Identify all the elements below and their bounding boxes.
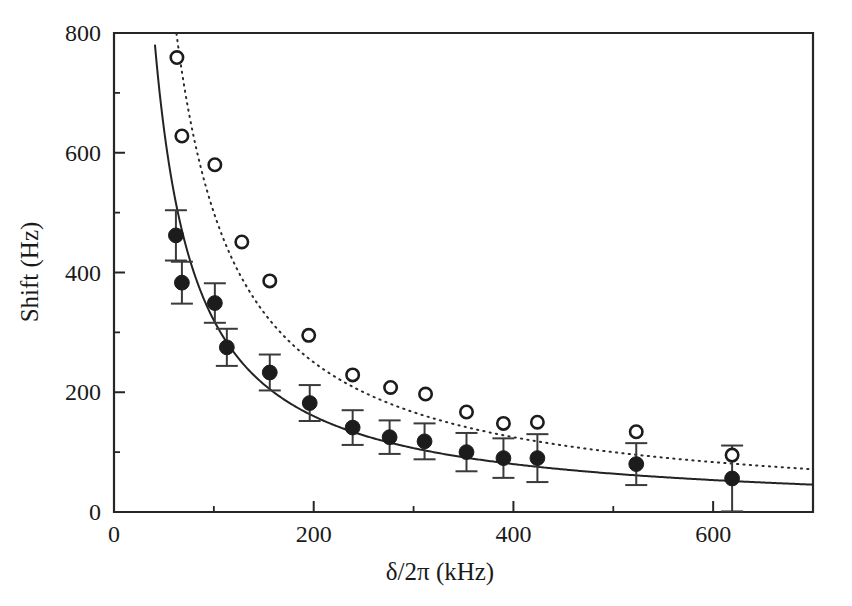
fit-curves xyxy=(155,34,813,485)
data-markers xyxy=(169,51,740,486)
scatter-plot-svg: 02004006000200400600800 δ/2π (kHz) Shift… xyxy=(0,0,852,606)
filled-circle-marker xyxy=(219,340,234,355)
y-tick-label: 400 xyxy=(65,260,101,286)
error-bars xyxy=(165,210,743,511)
open-circle-marker xyxy=(176,130,188,142)
filled-circle-marker xyxy=(725,471,740,486)
solid-fit xyxy=(155,45,813,485)
open-circle-marker xyxy=(460,406,472,418)
open-circle-marker xyxy=(531,416,543,428)
open-circle-marker xyxy=(236,236,248,248)
open-circle-marker xyxy=(497,417,509,429)
open-circle-marker xyxy=(346,369,358,381)
filled-circle-marker xyxy=(459,445,474,460)
x-tick-label: 600 xyxy=(695,521,731,547)
filled-circle-marker xyxy=(382,430,397,445)
x-tick-label: 0 xyxy=(108,521,120,547)
filled-circle-marker xyxy=(262,365,277,380)
y-axis-title: Shift (Hz) xyxy=(16,222,44,323)
filled-circle-marker xyxy=(175,275,190,290)
chart-figure: 02004006000200400600800 δ/2π (kHz) Shift… xyxy=(0,0,852,606)
axis-ticks xyxy=(114,33,713,512)
filled-circle-marker xyxy=(496,451,511,466)
dotted-fit xyxy=(177,34,814,470)
open-circle-marker xyxy=(264,275,276,287)
x-tick-label: 400 xyxy=(495,521,531,547)
filled-circle-marker xyxy=(345,420,360,435)
filled-circle-marker xyxy=(629,457,644,472)
y-tick-label: 0 xyxy=(89,499,101,525)
open-circle-marker xyxy=(384,381,396,393)
filled-circle-marker xyxy=(207,296,222,311)
open-circle-marker xyxy=(303,329,315,341)
open-circle-marker xyxy=(209,159,221,171)
x-axis-title: δ/2π (kHz) xyxy=(386,558,494,586)
filled-circle-marker xyxy=(530,451,545,466)
open-circle-marker xyxy=(171,51,183,63)
y-tick-label: 600 xyxy=(65,140,101,166)
open-circle-marker xyxy=(630,426,642,438)
y-tick-label: 800 xyxy=(65,20,101,46)
x-tick-label: 200 xyxy=(296,521,332,547)
filled-circle-marker xyxy=(169,228,184,243)
y-tick-label: 200 xyxy=(65,379,101,405)
plot-frame xyxy=(114,33,813,512)
filled-circle-marker xyxy=(417,434,432,449)
open-circle-marker xyxy=(726,449,738,461)
filled-circle-marker xyxy=(302,396,317,411)
open-circle-marker xyxy=(419,388,431,400)
